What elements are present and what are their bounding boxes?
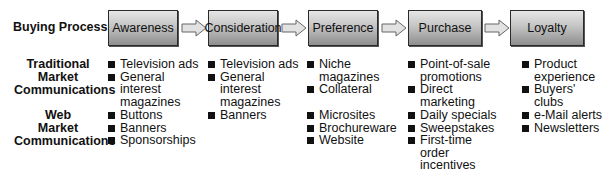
list-item: Niche magazines — [307, 58, 407, 83]
list-item: Television ads — [208, 58, 300, 71]
web-consideration: Banners — [208, 109, 300, 122]
list-item: Point-of-sale promotions — [408, 58, 500, 83]
arrow-right-icon — [381, 19, 407, 37]
list-item: e-Mail alerts — [522, 109, 608, 122]
web-preference: Microsites Brochureware Website — [307, 109, 407, 147]
list-item: Sponsorships — [108, 134, 200, 147]
row-label-web: Web Market Communications — [14, 109, 102, 148]
web-awareness: Buttons Banners Sponsorships — [108, 109, 200, 147]
traditional-purchase: Point-of-sale promotions Direct marketin… — [408, 58, 500, 108]
arrow-right-icon — [181, 19, 207, 37]
stage-awareness: Awareness — [108, 10, 178, 46]
web-purchase: Daily specials Sweepstakes First-time or… — [408, 109, 500, 169]
list-item: Website — [307, 134, 407, 147]
list-item: Banners — [208, 109, 300, 122]
list-item: Television ads — [108, 58, 200, 71]
traditional-preference: Niche magazines Collateral — [307, 58, 407, 96]
list-item: Daily specials — [408, 109, 500, 122]
list-item: Microsites — [307, 109, 407, 122]
list-item: First-time order incentives — [408, 134, 500, 169]
list-item: Newsletters — [522, 122, 608, 135]
stage-preference: Preference — [308, 10, 378, 46]
stage-loyalty: Loyalty — [510, 10, 584, 46]
traditional-awareness: Television ads General interest magazine… — [108, 58, 200, 108]
stage-purchase: Purchase — [408, 10, 482, 46]
list-item: General interest magazines — [108, 71, 200, 109]
stage-consideration: Consideration — [208, 10, 278, 46]
list-item: Direct marketing — [408, 83, 500, 108]
list-item: Product experience — [522, 58, 602, 83]
arrow-right-icon — [281, 19, 307, 37]
list-item: General interest magazines — [208, 71, 300, 109]
row-label-traditional: Traditional Market Communications — [14, 58, 102, 97]
list-item: Collateral — [307, 83, 407, 96]
arrow-right-icon — [484, 19, 510, 37]
web-loyalty: e-Mail alerts Newsletters — [522, 109, 608, 134]
buying-process-label: Buying Process — [13, 21, 107, 34]
traditional-consideration: Television ads General interest magazine… — [208, 58, 300, 108]
traditional-loyalty: Product experience Buyers' clubs — [522, 58, 602, 108]
list-item: Buyers' clubs — [522, 83, 602, 108]
list-item: Buttons — [108, 109, 200, 122]
